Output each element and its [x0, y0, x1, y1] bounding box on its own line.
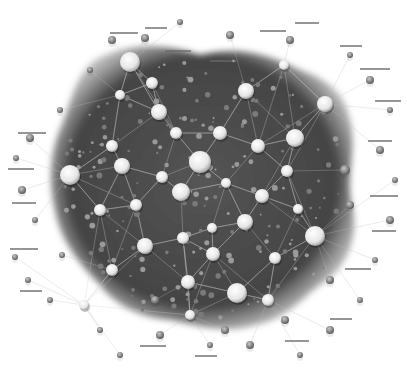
- node-label: [8, 168, 34, 170]
- hub-node[interactable]: [269, 252, 281, 264]
- hub-node[interactable]: [106, 140, 118, 152]
- periphery-node[interactable]: [97, 327, 103, 333]
- periphery-node[interactable]: [386, 216, 394, 224]
- hub-node[interactable]: [156, 171, 168, 183]
- minor-node: [128, 103, 133, 108]
- hub-node[interactable]: [177, 232, 189, 244]
- periphery-node[interactable]: [221, 326, 229, 334]
- periphery-node[interactable]: [366, 76, 374, 84]
- periphery-node[interactable]: [12, 254, 18, 260]
- periphery-node[interactable]: [108, 36, 116, 44]
- periphery-node[interactable]: [281, 316, 289, 324]
- periphery-node[interactable]: [141, 34, 149, 42]
- hub-node[interactable]: [286, 129, 304, 147]
- periphery-node[interactable]: [32, 217, 38, 223]
- minor-node: [254, 99, 258, 103]
- hub-node[interactable]: [106, 264, 118, 276]
- periphery-node[interactable]: [47, 297, 53, 303]
- periphery-node[interactable]: [26, 134, 34, 142]
- periphery-node[interactable]: [156, 331, 164, 339]
- hub-node[interactable]: [281, 165, 293, 177]
- hub-node[interactable]: [317, 96, 333, 112]
- minor-node: [204, 240, 209, 245]
- minor-node: [194, 299, 198, 303]
- periphery-node[interactable]: [151, 296, 159, 304]
- hub-node[interactable]: [255, 189, 269, 203]
- hub-node[interactable]: [206, 247, 220, 261]
- hub-node[interactable]: [60, 165, 80, 185]
- periphery-node[interactable]: [57, 107, 63, 113]
- minor-node: [201, 123, 204, 126]
- minor-node: [256, 245, 262, 251]
- hub-node[interactable]: [305, 226, 325, 246]
- periphery-node[interactable]: [376, 146, 384, 154]
- hub-node[interactable]: [185, 310, 195, 320]
- periphery-node[interactable]: [226, 31, 234, 39]
- hub-node[interactable]: [207, 223, 217, 233]
- edge: [28, 280, 84, 305]
- hub-node[interactable]: [237, 214, 253, 230]
- hub-node[interactable]: [115, 90, 125, 100]
- minor-node: [294, 258, 297, 261]
- minor-node: [152, 139, 157, 144]
- minor-node: [326, 162, 331, 167]
- periphery-node[interactable]: [372, 257, 378, 263]
- periphery-node[interactable]: [18, 186, 26, 194]
- hub-node[interactable]: [181, 275, 195, 289]
- minor-node: [195, 118, 198, 121]
- minor-node: [334, 209, 339, 214]
- node-label: [340, 45, 362, 47]
- periphery-node[interactable]: [326, 276, 334, 284]
- periphery-node[interactable]: [117, 352, 123, 358]
- hub-node[interactable]: [137, 238, 153, 254]
- minor-node: [148, 113, 150, 115]
- node-label: [210, 60, 236, 62]
- periphery-node[interactable]: [357, 297, 363, 303]
- periphery-node[interactable]: [347, 52, 353, 58]
- node-label: [372, 230, 396, 232]
- hub-node[interactable]: [120, 52, 140, 72]
- minor-node: [248, 159, 253, 164]
- hub-node[interactable]: [213, 126, 227, 140]
- hub-node[interactable]: [94, 204, 106, 216]
- minor-node: [139, 257, 144, 262]
- periphery-node[interactable]: [297, 352, 303, 358]
- hub-node[interactable]: [170, 127, 182, 139]
- periphery-node[interactable]: [207, 342, 213, 348]
- minor-node: [131, 295, 133, 297]
- periphery-node[interactable]: [286, 36, 294, 44]
- hub-node[interactable]: [79, 300, 89, 310]
- minor-node: [208, 292, 214, 298]
- minor-node: [309, 207, 312, 210]
- periphery-node[interactable]: [246, 341, 254, 349]
- periphery-node[interactable]: [340, 165, 350, 175]
- hub-node[interactable]: [227, 283, 247, 303]
- hub-node[interactable]: [262, 294, 274, 306]
- periphery-node[interactable]: [326, 326, 334, 334]
- node-label: [345, 268, 371, 270]
- hub-node[interactable]: [189, 151, 211, 173]
- minor-node: [253, 298, 255, 300]
- periphery-node[interactable]: [59, 252, 65, 258]
- minor-node: [218, 315, 222, 319]
- hub-node[interactable]: [114, 158, 130, 174]
- minor-node: [213, 117, 215, 119]
- periphery-node[interactable]: [392, 177, 398, 183]
- node-label: [18, 132, 46, 134]
- periphery-node[interactable]: [177, 19, 183, 25]
- periphery-node[interactable]: [346, 201, 354, 209]
- minor-node: [213, 195, 217, 199]
- hub-node[interactable]: [221, 178, 231, 188]
- hub-node[interactable]: [130, 199, 142, 211]
- hub-node[interactable]: [151, 104, 167, 120]
- periphery-node[interactable]: [25, 277, 31, 283]
- hub-node[interactable]: [146, 77, 158, 89]
- hub-node[interactable]: [172, 183, 190, 201]
- hub-node[interactable]: [279, 60, 289, 70]
- periphery-node[interactable]: [87, 67, 93, 73]
- hub-node[interactable]: [293, 204, 303, 214]
- hub-node[interactable]: [251, 139, 265, 153]
- periphery-node[interactable]: [13, 155, 19, 161]
- hub-node[interactable]: [238, 83, 254, 99]
- periphery-node[interactable]: [387, 107, 393, 113]
